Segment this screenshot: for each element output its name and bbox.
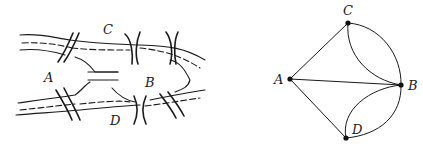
edge-c-b-outer bbox=[348, 23, 401, 85]
label-c-graph: C bbox=[343, 3, 353, 18]
edge-a-c bbox=[290, 23, 348, 79]
node-d bbox=[343, 135, 348, 140]
node-b bbox=[398, 82, 403, 87]
label-d-graph: D bbox=[351, 122, 363, 137]
node-c bbox=[345, 20, 350, 25]
edge-a-d bbox=[290, 79, 346, 138]
label-b-sketch: B bbox=[144, 75, 155, 90]
konigsberg-figure: C A B D C A B D bbox=[0, 0, 423, 151]
graph bbox=[290, 23, 401, 138]
label-a-sketch: A bbox=[43, 70, 53, 85]
label-b-graph: B bbox=[407, 78, 418, 93]
label-a-graph: A bbox=[273, 72, 283, 87]
label-d-sketch: D bbox=[109, 113, 121, 128]
label-c-sketch: C bbox=[103, 22, 113, 37]
node-a bbox=[287, 76, 292, 81]
